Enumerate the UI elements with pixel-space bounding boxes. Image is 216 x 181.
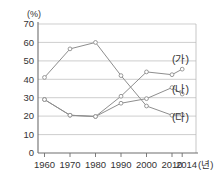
y-axis-tick-labels: 70 60 50 40 30 20 10 0 [23,18,34,158]
y-tick-label-40: 40 [23,74,34,85]
series-line-da [45,42,183,115]
x-tick-label-2014: 2014 [176,159,197,170]
series-label-da: (다) [172,111,189,123]
x-axis-unit-label: (년) [198,159,213,170]
y-tick-label-20: 20 [23,110,34,121]
x-axis-tick-labels: 1960 1970 1980 1990 2000 2010 2014 (년) [34,159,213,170]
data-point [94,41,98,45]
y-tick-label-30: 30 [23,92,34,103]
chart-canvas: (%) 70 60 50 40 30 20 10 0 [0,0,216,181]
data-point [180,67,184,71]
data-point [145,70,149,74]
data-point [43,76,47,80]
y-tick-label-60: 60 [23,37,34,48]
data-point [170,73,174,77]
y-tick-label-10: 10 [23,129,34,140]
series-ga [43,67,185,118]
x-tick-label-1960: 1960 [34,159,55,170]
data-point [43,98,47,102]
x-axis-tick-marks [45,153,183,157]
y-tick-label-0: 0 [29,147,34,158]
x-tick-label-1980: 1980 [85,159,106,170]
data-point [119,101,123,105]
data-point [145,104,149,108]
series-labels: (가) (나) (다) [172,53,189,123]
data-point [145,97,149,101]
x-tick-label-2000: 2000 [136,159,157,170]
series-line-ga [45,69,183,116]
series-da [43,41,185,118]
series-label-ga: (가) [172,53,189,65]
data-point [68,47,72,51]
x-tick-label-1970: 1970 [59,159,80,170]
data-point [119,94,123,98]
y-tick-label-70: 70 [23,18,34,29]
data-point [68,113,72,117]
data-point [94,115,98,119]
y-tick-label-50: 50 [23,55,34,66]
series-label-na: (나) [172,83,189,95]
line-chart: (%) 70 60 50 40 30 20 10 0 [0,0,216,181]
data-point [119,74,123,78]
x-tick-label-1990: 1990 [110,159,131,170]
